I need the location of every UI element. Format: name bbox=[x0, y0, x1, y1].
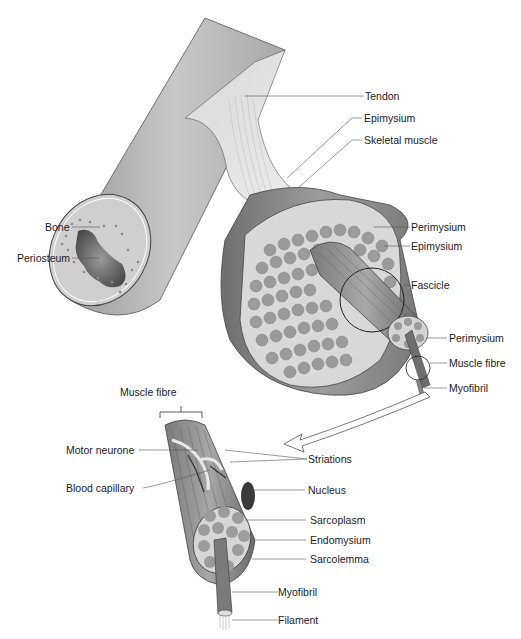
lower-fibre-bracket bbox=[160, 406, 202, 418]
label-tendon: Tendon bbox=[365, 90, 399, 102]
label-fascicle: Fascicle bbox=[411, 279, 450, 291]
label-skeletal-muscle: Skeletal muscle bbox=[364, 134, 438, 146]
filaments bbox=[220, 615, 229, 630]
label-perimysium-2: Perimysium bbox=[449, 332, 504, 344]
label-nucleus: Nucleus bbox=[308, 484, 346, 496]
label-bone: Bone bbox=[45, 221, 70, 233]
label-epimysium-2: Epimysium bbox=[411, 240, 462, 252]
label-sarcoplasm: Sarcoplasm bbox=[310, 514, 365, 526]
nucleus bbox=[241, 482, 255, 510]
label-motor-neurone: Motor neurone bbox=[66, 444, 134, 456]
muscle-diagram bbox=[0, 0, 521, 639]
label-perimysium-1: Perimysium bbox=[411, 221, 466, 233]
label-periosteum: Periosteum bbox=[17, 252, 70, 264]
label-sarcolemma: Sarcolemma bbox=[310, 553, 369, 565]
label-muscle-fibre: Muscle fibre bbox=[449, 357, 506, 369]
label-epimysium-top: Epimysium bbox=[364, 112, 415, 124]
label-striations: Striations bbox=[308, 453, 352, 465]
label-myofibril: Myofibril bbox=[449, 382, 488, 394]
label-lower-myofibril: Myofibril bbox=[278, 586, 317, 598]
label-blood-capillary: Blood capillary bbox=[66, 482, 134, 494]
label-lower-muscle-fibre: Muscle fibre bbox=[120, 386, 177, 398]
zoom-arrow bbox=[284, 392, 430, 452]
label-endomysium: Endomysium bbox=[310, 534, 371, 546]
label-filament: Filament bbox=[278, 614, 318, 626]
